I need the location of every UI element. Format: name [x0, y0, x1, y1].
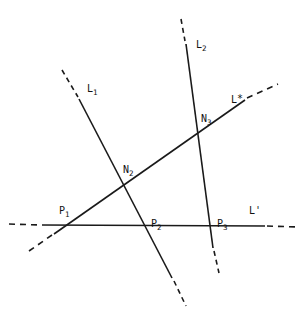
label-p3-subscript: 3 [223, 223, 228, 232]
label-point-p2: P2 [151, 219, 162, 229]
line-lstar-dash-lower [29, 235, 52, 251]
geometry-canvas [0, 0, 307, 320]
label-p1-subscript: 1 [65, 210, 70, 219]
label-n2-subscript: 2 [129, 169, 134, 178]
line-lprime-dash-left [9, 224, 40, 225]
line-lstar-solid [54, 100, 245, 234]
label-point-n2: N2 [123, 165, 134, 175]
line-l1-solid [79, 99, 172, 278]
label-line-l1: L1 [87, 84, 98, 94]
line-l1-dash-upper [62, 70, 78, 97]
label-point-n3: N3 [201, 114, 212, 124]
label-lprime-text: L' [249, 205, 261, 216]
label-line-l2: L2 [196, 40, 207, 50]
line-l2-solid [186, 44, 213, 248]
label-l2-subscript: 2 [202, 44, 207, 53]
geometry-diagram: L1 L2 L* L' N2 N3 P1 P2 P3 [0, 0, 307, 320]
line-lstar-dash-upper [247, 84, 278, 98]
label-lstar-superscript: * [237, 93, 243, 104]
label-p2-subscript: 2 [157, 223, 162, 232]
label-n3-subscript: 3 [207, 118, 212, 127]
label-line-lprime: L' [249, 206, 261, 216]
line-l2-dash-upper [181, 19, 185, 41]
line-lprime-dash-right [267, 226, 298, 227]
label-l1-subscript: 1 [93, 88, 98, 97]
label-point-p1: P1 [59, 206, 70, 216]
label-line-lstar: L* [231, 95, 243, 105]
line-l1-dash-lower [174, 281, 186, 306]
label-point-p3: P3 [217, 219, 228, 229]
line-l2-dash-lower [214, 251, 219, 273]
